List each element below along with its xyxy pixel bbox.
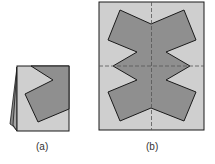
figure-a-folded-paper [10,66,69,131]
figure-b-unfolded-paper [99,2,204,130]
caption-a: (a) [36,141,48,152]
cut-shape-unfolded [108,10,196,121]
caption-b: (b) [146,141,158,152]
diagram-canvas [0,0,215,164]
